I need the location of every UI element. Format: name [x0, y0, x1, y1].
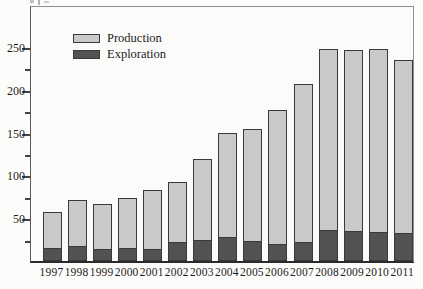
- legend-row-production: Production: [73, 33, 166, 44]
- exploration-segment: [243, 241, 262, 261]
- production-segment: [218, 133, 237, 237]
- production-segment: [294, 84, 313, 242]
- y-axis-label: 200: [0, 85, 25, 98]
- exploration-segment: [319, 230, 338, 261]
- bar-group-2005: [243, 129, 262, 261]
- bar-group-2007: [294, 84, 313, 261]
- legend-row-exploration: Exploration: [73, 49, 166, 60]
- y-tick-minor: [25, 155, 30, 157]
- production-segment: [243, 129, 262, 241]
- exploration-segment: [268, 244, 287, 261]
- production-segment: [369, 49, 388, 232]
- bar-group-2006: [268, 110, 287, 261]
- production-segment: [168, 182, 187, 242]
- bar-group-2010: [369, 49, 388, 261]
- production-segment: [118, 198, 137, 248]
- x-axis-year-label: 2002: [163, 266, 191, 278]
- bar-group-2009: [344, 50, 363, 261]
- exploration-segment: [68, 246, 87, 261]
- bar-group-2008: [319, 49, 338, 261]
- x-axis-year-label: 2008: [313, 266, 341, 278]
- production-segment: [93, 204, 112, 249]
- legend-production-label: Production: [107, 33, 162, 44]
- exploration-segment: [344, 231, 363, 261]
- plot-area: Production Exploration: [30, 6, 414, 263]
- bar-group-1997: [43, 212, 62, 261]
- bar-group-1998: [68, 200, 87, 261]
- y-tick-minor: [25, 241, 30, 243]
- legend-swatch-exploration-icon: [73, 50, 100, 59]
- production-segment: [43, 212, 62, 248]
- bar-group-1999: [93, 204, 112, 261]
- production-segment: [268, 110, 287, 244]
- x-axis-year-label: 1997: [38, 266, 66, 278]
- exploration-segment: [193, 240, 212, 261]
- production-segment: [143, 190, 162, 249]
- exploration-segment: [143, 249, 162, 261]
- y-tick-minor: [25, 198, 30, 200]
- bar-group-2001: [143, 190, 162, 261]
- x-axis-year-label: 2006: [263, 266, 291, 278]
- y-axis-label: 150: [0, 128, 25, 141]
- exploration-segment: [394, 233, 413, 261]
- production-segment: [193, 159, 212, 240]
- production-segment: [68, 200, 87, 246]
- exploration-segment: [93, 249, 112, 261]
- production-segment: [319, 49, 338, 230]
- x-axis-year-label: 2011: [388, 266, 416, 278]
- bar-group-2002: [168, 182, 187, 261]
- legend-exploration-label: Exploration: [107, 49, 166, 60]
- x-axis-year-label: 2003: [188, 266, 216, 278]
- exploration-segment: [294, 242, 313, 261]
- production-segment: [394, 60, 413, 233]
- y-axis-label: 50: [0, 213, 25, 226]
- exploration-segment: [118, 248, 137, 261]
- bar-group-2000: [118, 198, 137, 261]
- x-axis-year-label: 2000: [113, 266, 141, 278]
- figure: Production Exploration 50100150200250 19…: [0, 0, 423, 289]
- y-axis-label: 250: [0, 42, 25, 55]
- y-axis-label: 100: [0, 170, 25, 183]
- x-axis-year-label: 1998: [63, 266, 91, 278]
- x-axis-year-label: 2007: [288, 266, 316, 278]
- cropped-text-artifact: [28, 0, 68, 5]
- exploration-segment: [218, 237, 237, 261]
- exploration-segment: [369, 232, 388, 261]
- y-tick-minor: [25, 112, 30, 114]
- x-axis-year-label: 2005: [238, 266, 266, 278]
- y-tick-minor: [25, 69, 30, 71]
- bar-group-2011: [394, 60, 413, 261]
- legend: Production Exploration: [73, 33, 166, 65]
- legend-swatch-production-icon: [73, 34, 100, 43]
- exploration-segment: [168, 242, 187, 261]
- x-axis-year-label: 2004: [213, 266, 241, 278]
- x-axis-year-label: 2001: [138, 266, 166, 278]
- bar-group-2003: [193, 159, 212, 261]
- x-axis-year-label: 2009: [338, 266, 366, 278]
- exploration-segment: [43, 248, 62, 261]
- bar-group-2004: [218, 133, 237, 261]
- x-axis-year-label: 2010: [363, 266, 391, 278]
- production-segment: [344, 50, 363, 231]
- x-axis-year-label: 1999: [88, 266, 116, 278]
